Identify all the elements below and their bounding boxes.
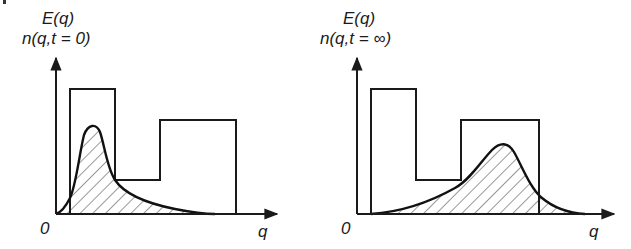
origin-label: 0 bbox=[341, 219, 351, 238]
y-label-distribution: n(q,t = 0) bbox=[22, 29, 91, 48]
distribution-fill bbox=[56, 126, 215, 214]
y-label-distribution: n(q,t = ∞) bbox=[320, 29, 391, 48]
panel-final: E(q) n(q,t = ∞) 0 q bbox=[320, 9, 614, 241]
y-label-energy: E(q) bbox=[343, 9, 375, 28]
x-axis-label: q bbox=[258, 222, 268, 241]
origin-label: 0 bbox=[40, 219, 50, 238]
diagram-canvas: E(q) n(q,t = 0) 0 q E(q) n(q,t = ∞) 0 q bbox=[0, 0, 631, 249]
x-axis-label: q bbox=[589, 222, 599, 241]
distribution-fill bbox=[371, 144, 585, 214]
y-label-energy: E(q) bbox=[42, 9, 74, 28]
corner-artifact bbox=[3, 0, 6, 4]
panel-initial: E(q) n(q,t = 0) 0 q bbox=[22, 9, 277, 241]
